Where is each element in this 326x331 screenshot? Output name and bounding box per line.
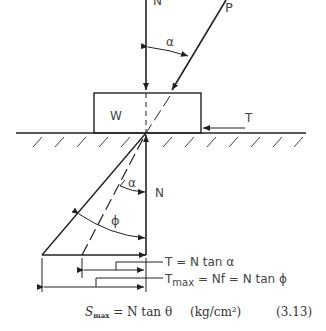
ground-hatching	[33, 137, 303, 147]
equation-units: (kg/cm²)	[190, 305, 241, 319]
label-n-bottom: N	[155, 186, 164, 200]
annotation-tmax-eq: Tmax = Nf = N tan ϕ	[164, 272, 287, 288]
label-p: P	[225, 0, 233, 15]
applied-force-p-arrow	[172, 0, 226, 90]
equation-smax: Smax = N tan θ	[85, 305, 172, 320]
resultant-max-line	[42, 133, 146, 255]
label-w: W	[110, 109, 122, 123]
label-t: T	[244, 111, 253, 125]
label-n-top: N	[153, 0, 162, 8]
label-alpha-bottom: α	[128, 176, 136, 190]
label-phi: ϕ	[111, 213, 120, 228]
annotation-t-eq: T = N tan α	[164, 255, 234, 269]
friction-diagram: N P α W T α N ϕ T = N tan α Tmax = Nf = …	[0, 0, 326, 331]
label-alpha-top: α	[166, 35, 174, 49]
equation-number: (3.13)	[276, 305, 312, 319]
